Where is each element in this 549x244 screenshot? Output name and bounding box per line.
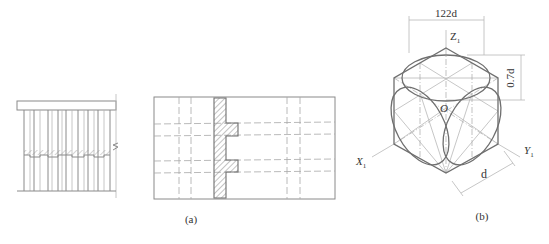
- joint-line: [24, 155, 110, 157]
- x-axis: [372, 144, 394, 157]
- panel-b-label: (b): [476, 210, 489, 223]
- dim-line-bottom: [461, 163, 513, 193]
- plan-outline: [154, 97, 335, 199]
- grid-line: [154, 159, 335, 161]
- dim-label-right: 0.7d: [504, 68, 516, 88]
- hatched-wall-section: [214, 98, 238, 198]
- grid-line: [154, 122, 335, 124]
- origin-label: O: [440, 102, 448, 114]
- elevation-drawing: [17, 94, 118, 198]
- dim-label-bottom: d: [481, 167, 487, 181]
- axis-label-y: Y1: [524, 144, 534, 159]
- top-beam: [17, 101, 116, 110]
- hatched-joint: [24, 150, 110, 155]
- plan-drawing: (a): [154, 97, 335, 226]
- isometric-cube: 122d 0.7d Z1 X1 Y1: [355, 7, 534, 223]
- grid-line: [154, 134, 335, 136]
- grid-line: [154, 171, 335, 173]
- extension-line: [452, 181, 463, 196]
- axis-label-z: Z1: [450, 30, 461, 45]
- y-axis: [498, 144, 520, 157]
- dim-label-top: 122d: [435, 7, 458, 19]
- axis-label-x: X1: [355, 155, 367, 170]
- break-symbol: [113, 143, 118, 150]
- figure-canvas: (a) 122d 0.7d Z1 X1 Y1: [0, 0, 549, 244]
- panel-a-label: (a): [185, 213, 198, 226]
